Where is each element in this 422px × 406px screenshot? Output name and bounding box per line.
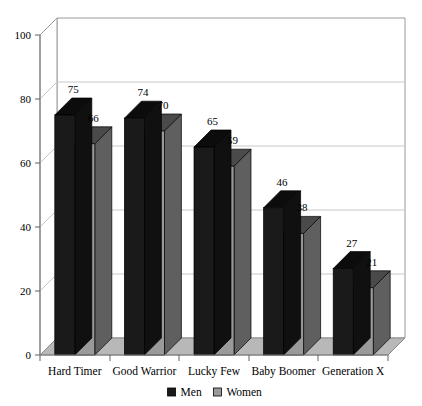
bar-value-label: 75 — [68, 83, 80, 95]
bar-men-2 — [194, 130, 231, 355]
legend-item-women[interactable]: Women — [213, 386, 262, 398]
bar-value-label: 21 — [366, 256, 377, 268]
chart-legend: MenWomen — [168, 386, 263, 398]
bar-men-3 — [264, 191, 301, 355]
x-axis-line — [40, 355, 388, 361]
bar-chart: 100 80 60 40 20 0 21273846596570746675 H… — [0, 0, 422, 406]
x-tick-label-4: Generation X — [322, 365, 385, 377]
bar-value-label: 46 — [277, 176, 289, 188]
bar-men-0 — [55, 98, 92, 355]
y-tick-label: 100 — [15, 29, 32, 41]
bar-value-label: 74 — [137, 86, 149, 98]
bar-value-label: 59 — [227, 134, 239, 146]
bar-value-label: 70 — [157, 99, 169, 111]
x-tick-label-2: Lucky Few — [188, 365, 241, 378]
x-tick-label-3: Baby Boomer — [251, 365, 315, 378]
bar-value-label: 66 — [88, 112, 100, 124]
legend-label: Women — [226, 386, 262, 398]
y-axis-ticks — [35, 35, 40, 355]
x-tick-label-0: Hard Timer — [48, 365, 102, 377]
legend-label: Men — [181, 386, 202, 398]
plot-left-wall — [40, 18, 57, 355]
y-tick-label: 40 — [20, 221, 32, 233]
y-tick-label: 0 — [26, 349, 32, 361]
y-tick-label: 60 — [20, 157, 32, 169]
legend-item-men[interactable]: Men — [168, 386, 202, 398]
y-tick-label: 80 — [20, 93, 32, 105]
x-tick-label-1: Good Warrior — [113, 365, 177, 377]
bar-men-1 — [124, 101, 161, 355]
bar-value-label: 27 — [346, 237, 358, 249]
y-tick-label: 20 — [20, 285, 32, 297]
chart-canvas: 100 80 60 40 20 0 21273846596570746675 H… — [0, 0, 422, 406]
x-axis-labels: Hard TimerGood WarriorLucky FewBaby Boom… — [48, 365, 385, 378]
bar-men-4 — [333, 252, 370, 355]
bar-value-label: 38 — [297, 201, 309, 213]
y-axis-labels: 100 80 60 40 20 0 — [15, 29, 32, 361]
bar-value-label: 65 — [207, 115, 219, 127]
